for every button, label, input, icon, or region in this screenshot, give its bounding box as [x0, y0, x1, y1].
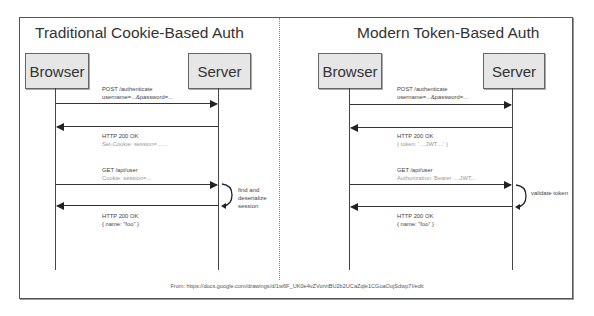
right-browser-lifeline: [349, 88, 350, 270]
msg-line1: HTTP 200 OK: [102, 133, 138, 139]
msg-line2: { name: "foo" }: [397, 220, 434, 228]
msg-line2: Cookie: session=...: [102, 174, 151, 182]
note-line: deserialize: [238, 194, 267, 202]
note-line: find and: [238, 186, 267, 194]
right-server-note: validate token: [531, 189, 568, 197]
left-msg-2-arrow: [57, 126, 218, 127]
left-server-box: Server: [188, 53, 251, 89]
left-browser-lifeline: [55, 88, 56, 270]
left-panel-title: Traditional Cookie-Based Auth: [35, 24, 244, 42]
right-msg-3-label: GET /api/user Authorization: Bearer ....…: [397, 166, 476, 182]
left-msg-4-label: HTTP 200 OK { name: "foo" }: [102, 212, 139, 228]
msg-line2: username=...&password=...: [102, 93, 173, 101]
right-msg-3-arrow: [350, 184, 511, 185]
note-line: validate token: [531, 190, 568, 196]
msg-line1: POST /authenticate: [102, 86, 153, 92]
left-msg-1-label: POST /authenticate username=...&password…: [102, 85, 173, 101]
msg-line1: POST /authenticate: [397, 86, 448, 92]
msg-line1: HTTP 200 OK: [397, 133, 433, 139]
msg-line2: Set-Cookie: session=.......: [102, 140, 168, 148]
left-server-lifeline: [218, 88, 219, 270]
left-self-loop-icon: [220, 180, 236, 210]
right-msg-4-label: HTTP 200 OK { name: "foo" }: [397, 212, 434, 228]
right-msg-2-arrow: [351, 127, 512, 128]
msg-line2: { token: '....JWT....' }: [397, 140, 448, 148]
msg-line2: { name: "foo" }: [102, 220, 139, 228]
right-self-loop-icon: [514, 181, 530, 211]
left-msg-2-label: HTTP 200 OK Set-Cookie: session=.......: [102, 132, 168, 148]
left-msg-3-arrow: [56, 184, 217, 185]
right-msg-1-arrow: [350, 104, 511, 105]
right-msg-2-label: HTTP 200 OK { token: '....JWT....' }: [397, 132, 448, 148]
msg-line1: GET /api/user: [397, 167, 433, 173]
note-line: session: [238, 202, 267, 210]
right-server-lifeline: [512, 88, 513, 270]
msg-line2: Authorization: Bearer ....JWT...: [397, 174, 476, 182]
left-msg-3-label: GET /api/user Cookie: session=...: [102, 166, 151, 182]
msg-line1: HTTP 200 OK: [102, 213, 138, 219]
right-msg-4-arrow: [351, 206, 512, 207]
right-browser-box: Browser: [318, 53, 382, 89]
msg-line1: GET /api/user: [102, 167, 138, 173]
msg-line1: HTTP 200 OK: [397, 213, 433, 219]
source-caption: From: https://docs.google.com/drawings/d…: [0, 283, 594, 289]
right-server-box: Server: [483, 53, 545, 89]
right-panel-title: Modern Token-Based Auth: [357, 24, 539, 42]
msg-line2: username=...&password=...: [397, 93, 468, 101]
left-server-note: find and deserialize session: [238, 186, 267, 210]
left-browser-box: Browser: [25, 53, 89, 89]
left-msg-4-arrow: [57, 205, 218, 206]
panel-divider: [279, 18, 280, 280]
right-msg-1-label: POST /authenticate username=...&password…: [397, 85, 468, 101]
left-msg-1-arrow: [56, 103, 217, 104]
